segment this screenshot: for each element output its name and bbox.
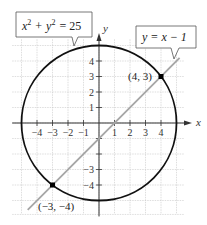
intersection-point [50, 183, 55, 188]
point-label-neg3-neg4: (−3, −4) [38, 200, 75, 213]
point-label-4-3: (4, 3) [128, 70, 152, 83]
x-tick-label: −2 [63, 127, 74, 138]
x-tick-label: −1 [78, 127, 89, 138]
y-tick-label: 4 [89, 56, 94, 67]
graph: −4−3−2−11234−4−31234 x2+y2= 25 y = x − 1… [0, 0, 207, 225]
axes: −4−3−2−11234−4−31234 [12, 33, 192, 216]
x-tick-label: 3 [143, 127, 148, 138]
x-tick-label: −3 [47, 127, 58, 138]
y-tick-label: −4 [83, 180, 94, 191]
y-tick-label: −3 [83, 164, 94, 175]
y-tick-label: 3 [89, 71, 94, 82]
x-tick-label: 2 [128, 127, 133, 138]
x-tick-label: 4 [159, 127, 164, 138]
intersection-point [159, 74, 164, 79]
line-equation-text: y = x − 1 [141, 30, 187, 44]
y-axis-arrow-icon [97, 33, 102, 41]
circle-equation-callout: x2+y2= 25 [16, 12, 92, 46]
line-equation-callout: y = x − 1 [136, 26, 196, 59]
x-tick-label: 1 [112, 127, 117, 138]
y-tick-label: 1 [89, 102, 94, 113]
y-tick-label: 2 [89, 87, 94, 98]
y-axis-label: y [102, 22, 108, 34]
x-axis-arrow-icon [184, 121, 192, 126]
x-axis-label: x [195, 116, 201, 128]
x-tick-label: −4 [32, 127, 43, 138]
